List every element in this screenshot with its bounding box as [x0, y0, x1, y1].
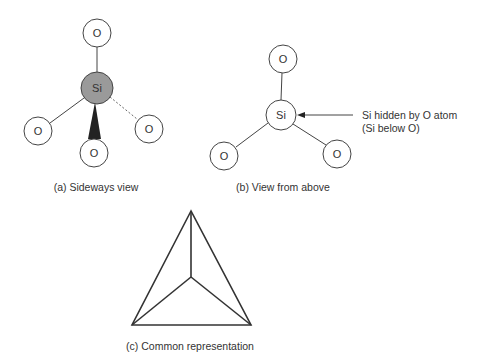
svg-text:O: O	[220, 150, 229, 162]
arrowhead-icon	[297, 112, 305, 118]
caption-a: (a) Sideways view	[54, 181, 139, 193]
bond-si-o-front-wedge	[88, 102, 101, 139]
annotation-line-1: Si hidden by O atom	[362, 109, 457, 121]
oxygen-atom-front: O	[80, 139, 108, 167]
oxygen-atom-top: O	[83, 19, 111, 47]
bond-si-o-right-dashed	[110, 97, 137, 119]
svg-text:O: O	[279, 53, 288, 65]
silicon-atom-shaded: Si	[81, 72, 113, 104]
oxygen-atom-left: O	[24, 117, 52, 145]
svg-text:Si: Si	[92, 82, 102, 94]
oxygen-atom-top: O	[269, 45, 297, 73]
caption-c: (c) Common representation	[126, 340, 254, 352]
annotation-arrow	[297, 112, 353, 118]
silicon-atom-white: Si	[266, 100, 296, 130]
oxygen-atom-right: O	[323, 140, 351, 168]
bond-si-o-left	[50, 98, 84, 123]
tetrahedron-edge-right	[191, 277, 251, 325]
panel-a-sideways-view: O O O O Si (a) Sideways view	[24, 19, 163, 193]
svg-text:O: O	[145, 123, 154, 135]
silicate-tetrahedron-figure: O O O O Si (a) Sideways view O	[0, 0, 481, 364]
bond-left	[236, 123, 268, 147]
caption-b: (b) View from above	[236, 181, 330, 193]
panel-b-view-from-above: O O O Si Si hidden by O atom (Si below O…	[210, 45, 457, 193]
panel-c-common-representation: (c) Common representation	[126, 211, 254, 352]
tetrahedron-edge-left	[132, 277, 191, 325]
svg-text:O: O	[333, 148, 342, 160]
svg-text:Si: Si	[276, 109, 286, 121]
oxygen-atom-left: O	[210, 142, 238, 170]
svg-text:O: O	[93, 27, 102, 39]
bond-right	[293, 124, 326, 145]
oxygen-atom-right: O	[135, 115, 163, 143]
svg-text:O: O	[90, 147, 99, 159]
svg-text:O: O	[34, 125, 43, 137]
annotation-line-2: (Si below O)	[362, 122, 420, 134]
bond-top	[281, 73, 282, 100]
